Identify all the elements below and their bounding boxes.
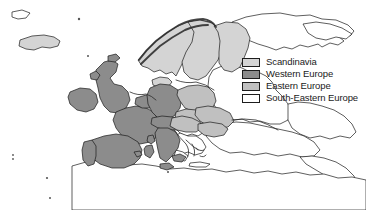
legend-swatch-eastern-europe — [242, 82, 260, 91]
speck-malta — [167, 171, 169, 173]
speck-azores-mark-2 — [12, 158, 14, 160]
legend-item-western-europe[interactable]: Western Europe — [242, 68, 366, 80]
speck-faroe — [78, 18, 80, 20]
speck-atlantic-island — [46, 177, 48, 179]
legend-item-scandinavia[interactable]: Scandinavia — [242, 56, 366, 68]
region-portugal — [82, 140, 96, 166]
legend-label-south-eastern-europe: South-Eastern Europe — [266, 93, 358, 103]
legend-swatch-south-eastern-europe — [242, 94, 260, 103]
speck-canary — [49, 197, 51, 199]
map-legend: Scandinavia Western Europe Eastern Europ… — [242, 56, 366, 104]
speck-azores-mark — [12, 154, 14, 156]
region-svalbard-sliver — [12, 10, 30, 19]
legend-item-south-eastern-europe[interactable]: South-Eastern Europe — [242, 92, 366, 104]
region-crete — [189, 162, 210, 167]
region-sardinia — [144, 145, 154, 158]
region-uk-north-tip — [108, 54, 120, 62]
region-caucasus — [288, 102, 356, 139]
europe-region-map-figure: Scandinavia Western Europe Eastern Europ… — [0, 0, 366, 210]
legend-label-scandinavia: Scandinavia — [266, 57, 317, 67]
legend-swatch-western-europe — [242, 70, 260, 79]
speck-north-sea-rock — [87, 55, 89, 57]
legend-item-eastern-europe[interactable]: Eastern Europe — [242, 80, 366, 92]
europe-map — [0, 0, 366, 210]
region-united-kingdom — [96, 60, 130, 113]
region-iceland — [19, 35, 60, 50]
legend-label-eastern-europe: Eastern Europe — [266, 81, 331, 91]
legend-swatch-scandinavia — [242, 58, 260, 67]
legend-label-western-europe: Western Europe — [266, 69, 333, 79]
region-ireland — [68, 88, 98, 112]
